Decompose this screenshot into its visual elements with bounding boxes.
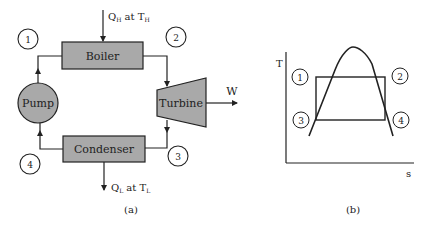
state-2-label: 2 — [173, 33, 179, 43]
ts-state-3-label: 3 — [298, 116, 304, 126]
pump-label: Pump — [22, 97, 54, 110]
rankine-cycle-figure: QH at TH Boiler 1 2 Pump Turbine W Conde… — [0, 0, 434, 226]
pipe-condenser-to-pump — [40, 123, 63, 149]
x-axis-label: s — [406, 168, 411, 179]
heat-out-label: QL at TL — [111, 182, 150, 194]
state-1-label: 1 — [25, 35, 31, 45]
saturation-dome — [309, 47, 393, 136]
flow-arrow-up-icon — [35, 68, 41, 74]
ts-diagram: T s 1 2 3 4 (b) — [276, 47, 414, 215]
work-label: W — [226, 85, 238, 98]
pipe-boiler-to-turbine — [143, 56, 167, 86]
y-axis-label: T — [276, 58, 283, 69]
ts-state-1-label: 1 — [297, 73, 303, 83]
state-3-label: 3 — [175, 152, 181, 162]
ts-state-4-label: 4 — [398, 116, 404, 126]
state-4-label: 4 — [27, 160, 33, 170]
flow-arrow-up-icon — [37, 130, 43, 136]
caption-b: (b) — [346, 204, 360, 215]
condenser-label: Condenser — [74, 143, 135, 156]
caption-a: (a) — [124, 204, 138, 215]
flow-arrow-down-icon — [164, 127, 170, 133]
pipe-pump-to-boiler — [38, 56, 62, 83]
cycle-path — [316, 77, 385, 120]
heat-in-label: QH at TH — [108, 11, 150, 23]
schematic-diagram: QH at TH Boiler 1 2 Pump Turbine W Conde… — [18, 10, 238, 215]
turbine-label: Turbine — [159, 97, 203, 110]
boiler-label: Boiler — [86, 50, 120, 63]
pipe-turbine-to-condenser — [145, 120, 167, 148]
ts-state-2-label: 2 — [397, 72, 403, 82]
